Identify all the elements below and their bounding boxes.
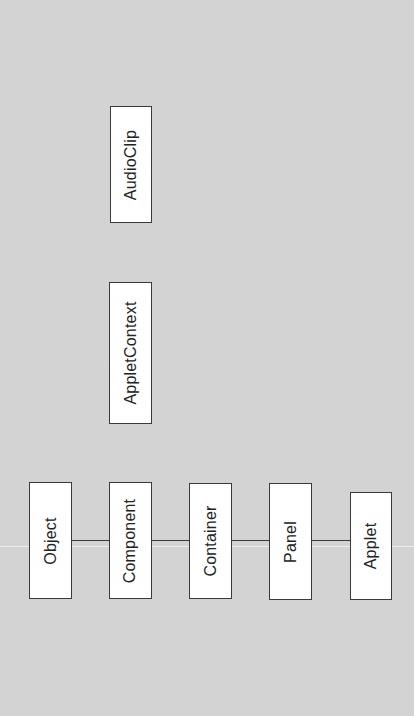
edge-container-panel xyxy=(231,540,269,541)
node-object: Object xyxy=(29,482,72,599)
node-container-label: Container xyxy=(202,505,220,576)
node-panel: Panel xyxy=(269,483,312,600)
node-component-label: Component xyxy=(122,498,140,583)
node-audioclip-label: AudioClip xyxy=(122,129,140,199)
node-applet: Applet xyxy=(350,492,392,600)
node-audioclip: AudioClip xyxy=(110,106,152,223)
node-appletcontext-label: AppletContext xyxy=(122,301,140,404)
edge-object-component xyxy=(71,540,109,541)
node-component: Component xyxy=(109,482,152,599)
node-applet-label: Applet xyxy=(362,523,380,570)
edge-component-container xyxy=(151,540,189,541)
node-container: Container xyxy=(189,483,232,599)
edge-panel-applet xyxy=(311,540,350,541)
node-panel-label: Panel xyxy=(282,521,300,563)
node-object-label: Object xyxy=(42,517,60,564)
node-appletcontext: AppletContext xyxy=(109,282,152,424)
